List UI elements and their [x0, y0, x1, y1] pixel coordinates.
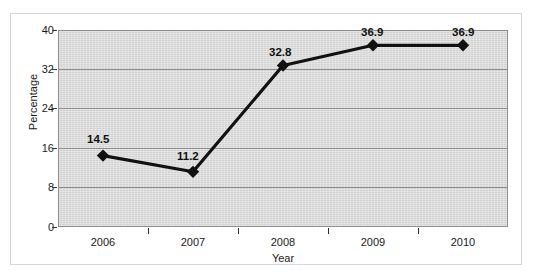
x-tick-mark-3 — [328, 228, 329, 234]
y-tick-mark-16 — [52, 148, 57, 149]
x-axis-title: Year — [248, 252, 318, 264]
y-tick-mark-24 — [52, 108, 57, 109]
gridline-16 — [59, 148, 507, 149]
plot-area — [58, 30, 508, 227]
data-label-2009: 36.9 — [361, 27, 383, 39]
plot-texture — [59, 31, 507, 226]
data-label-2006: 14.5 — [87, 134, 109, 146]
x-tick-label-2006: 2006 — [73, 236, 133, 248]
y-tick-mark-8 — [52, 187, 57, 188]
x-tick-label-2007: 2007 — [163, 236, 223, 248]
data-label-2007: 11.2 — [177, 151, 199, 163]
y-tick-mark-0 — [52, 227, 57, 228]
y-axis-title: Percentage — [27, 57, 39, 147]
x-tick-mark-4 — [418, 228, 419, 234]
data-label-2010: 36.9 — [452, 27, 474, 39]
x-tick-label-2009: 2009 — [343, 236, 403, 248]
gridline-24 — [59, 108, 507, 109]
chart-figure: 40 32 24 16 8 0 Percentage 2006 2007 200… — [0, 0, 536, 279]
x-tick-label-2008: 2008 — [253, 236, 313, 248]
x-tick-label-2010: 2010 — [433, 236, 493, 248]
gridline-32 — [59, 69, 507, 70]
y-tick-mark-32 — [52, 69, 57, 70]
data-label-2008: 32.8 — [269, 47, 291, 59]
gridline-8 — [59, 187, 507, 188]
x-tick-mark-1 — [148, 228, 149, 234]
x-tick-mark-2 — [238, 228, 239, 234]
y-tick-mark-40 — [52, 30, 57, 31]
